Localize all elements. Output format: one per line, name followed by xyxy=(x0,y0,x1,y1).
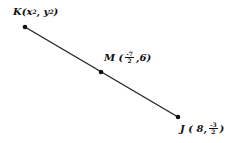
label-m-x-fraction: -72 xyxy=(125,51,134,64)
point-k xyxy=(23,25,28,30)
label-k-x-sub: 2 xyxy=(32,8,36,15)
label-m-x-den: 2 xyxy=(128,58,132,64)
label-j-y-den: 2 xyxy=(211,129,215,135)
point-m xyxy=(99,70,104,75)
label-m-y: 6 xyxy=(139,52,146,63)
label-m-name: M xyxy=(104,52,115,63)
label-k-y-sub: 2 xyxy=(49,8,53,15)
label-j-y-fraction: -32 xyxy=(209,122,218,135)
point-j xyxy=(176,115,181,120)
label-k-name: K xyxy=(13,6,22,17)
label-m: M ( -72,6) xyxy=(104,51,151,64)
label-j-x: 8 xyxy=(196,123,203,134)
label-j: J ( 8, -32) xyxy=(180,122,224,135)
label-j-name: J xyxy=(180,123,185,134)
label-k: K(x2, y2) xyxy=(13,6,58,17)
